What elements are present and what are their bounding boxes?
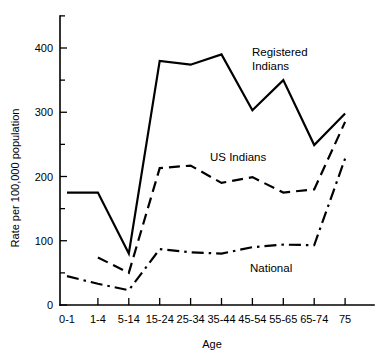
- series-annotation-registered-indians-line1: Registered: [252, 46, 308, 58]
- y-tick-label-0: 0: [47, 299, 53, 311]
- y-axis-ticks: [60, 16, 67, 305]
- x-tick-label-55-65: 55-65: [269, 313, 297, 325]
- chart-figure: 0100200300400 0-11-45-1415-2425-3435-444…: [0, 0, 385, 359]
- x-axis-title: Age: [202, 338, 222, 350]
- series-annotation-us-indians: US Indians: [210, 151, 267, 163]
- x-tick-label-0-1: 0-1: [59, 313, 75, 325]
- line-chart-canvas: 0100200300400 0-11-45-1415-2425-3435-444…: [0, 0, 385, 359]
- x-tick-label-25-34: 25-34: [177, 313, 205, 325]
- x-tick-label-35-44: 35-44: [207, 313, 235, 325]
- x-axis-tick-labels: 0-11-45-1415-2425-3435-4445-5455-6565-74…: [59, 313, 351, 325]
- x-tick-label-75: 75: [339, 313, 351, 325]
- x-tick-label-1-4: 1-4: [90, 313, 106, 325]
- x-tick-label-5-14: 5-14: [118, 313, 140, 325]
- x-tick-label-65-74: 65-74: [300, 313, 328, 325]
- series-line-registered-indians: [67, 54, 345, 253]
- series-line-national: [67, 159, 345, 291]
- y-tick-label-100: 100: [35, 235, 53, 247]
- y-axis-tick-labels: 0100200300400: [35, 42, 53, 311]
- y-tick-label-200: 200: [35, 171, 53, 183]
- series-annotation-registered-indians-line2: Indians: [252, 60, 289, 72]
- series-line-us-indians: [98, 122, 345, 273]
- x-axis-ticks: [98, 298, 345, 305]
- data-series-group: [67, 54, 345, 290]
- x-tick-label-15-24: 15-24: [146, 313, 174, 325]
- y-tick-label-300: 300: [35, 106, 53, 118]
- series-annotation-national: National: [250, 262, 292, 274]
- y-tick-label-400: 400: [35, 42, 53, 54]
- x-tick-label-45-54: 45-54: [238, 313, 266, 325]
- y-axis-title: Rate per 100,000 population: [9, 109, 21, 248]
